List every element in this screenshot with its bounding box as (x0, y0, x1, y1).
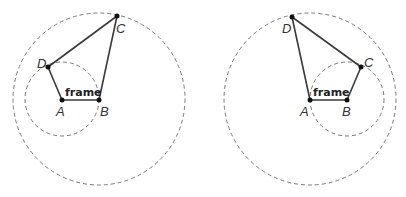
right-label-A: A (299, 104, 309, 119)
left-label-B: B (100, 104, 109, 119)
left-label-C: C (116, 21, 126, 36)
left-link-DA (48, 67, 62, 100)
left-link-CD (48, 16, 117, 67)
left-linkage-figure: frame A B C D (13, 13, 185, 185)
right-label-C: C (364, 55, 374, 70)
left-joint-C (115, 14, 120, 19)
right-label-D: D (282, 21, 291, 36)
left-label-A: A (55, 104, 65, 119)
right-joint-A (308, 98, 313, 103)
left-label-D: D (37, 56, 46, 71)
right-joint-D (290, 15, 295, 20)
right-label-B: B (342, 104, 351, 119)
right-link-DA (292, 17, 310, 100)
left-frame-label: frame (65, 86, 102, 99)
right-frame-label: frame (313, 86, 350, 99)
right-joint-C (359, 65, 364, 70)
right-linkage-figure: frame A B C D (224, 13, 396, 185)
left-link-BC (99, 16, 117, 100)
left-joint-A (60, 98, 65, 103)
right-link-CD (292, 17, 361, 67)
four-bar-linkage-diagram: frame A B C D frame A B C D (0, 0, 406, 197)
